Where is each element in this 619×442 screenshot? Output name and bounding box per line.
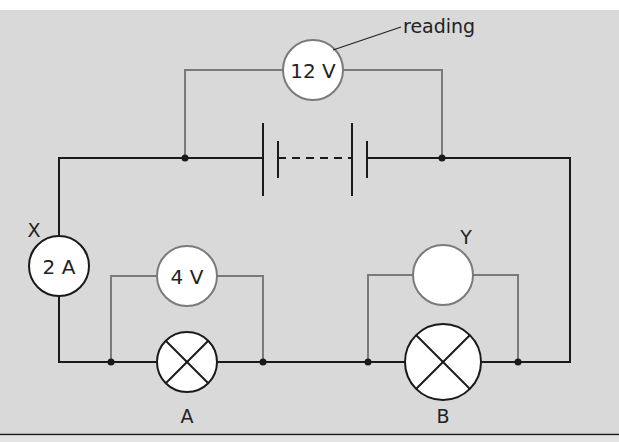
bottom-strip bbox=[0, 436, 619, 442]
junction-dot bbox=[365, 359, 372, 366]
voltmeter-lamp-a-reading: 4 V bbox=[171, 265, 204, 289]
circuit-svg: 12 V reading 2 A X 4 V A Y B bbox=[0, 0, 619, 442]
voltmeter-battery-reading: 12 V bbox=[290, 59, 336, 83]
junction-dot bbox=[108, 359, 115, 366]
junction-dot bbox=[515, 359, 522, 366]
junction-dot bbox=[439, 155, 446, 162]
junction-dot bbox=[182, 155, 189, 162]
reading-annotation: reading bbox=[403, 15, 475, 37]
ammeter-label-x: X bbox=[27, 219, 40, 241]
junction-dot bbox=[260, 359, 267, 366]
voltmeter-label-y: Y bbox=[459, 226, 472, 248]
voltmeter-y bbox=[413, 245, 473, 305]
lamp-a-label: A bbox=[181, 405, 194, 427]
circuit-diagram: 12 V reading 2 A X 4 V A Y B bbox=[0, 0, 619, 442]
lamp-b-label: B bbox=[436, 405, 449, 427]
ammeter-reading: 2 A bbox=[43, 255, 76, 279]
